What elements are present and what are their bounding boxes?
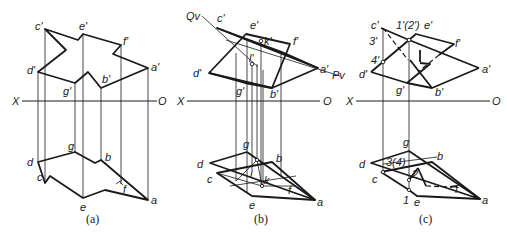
label-e-prime: e': [79, 20, 88, 32]
label-d: d: [197, 158, 204, 170]
label-b: b: [276, 152, 282, 164]
point-l: [255, 158, 258, 161]
front-view-quad: [209, 68, 318, 88]
label-c-prime: c': [35, 20, 44, 32]
caption-c: (c): [419, 212, 432, 226]
axis-label-x: X: [345, 95, 354, 107]
label-d: d: [27, 156, 34, 168]
label-g: g: [68, 140, 75, 152]
label-d-prime: d': [27, 64, 36, 76]
label-c: c: [37, 171, 43, 183]
point-2: [407, 178, 410, 181]
point-k-prime: [259, 39, 263, 43]
label-f-prime: f': [293, 35, 299, 47]
point-4-prime: [381, 60, 385, 64]
panel-a: X O c' e' f' d' a' g' b' g b d c f e a (…: [11, 20, 167, 226]
axis-label-x: X: [11, 95, 20, 107]
label-e: e: [249, 199, 255, 211]
label-e-prime: e': [424, 19, 433, 31]
label-b: b: [437, 150, 443, 162]
label-c: c: [207, 173, 213, 185]
axis-label-o: O: [158, 95, 167, 107]
label-a-prime: a': [151, 61, 160, 73]
label-e-prime: e': [250, 19, 259, 31]
label-a: a: [317, 196, 323, 208]
point-1: [407, 188, 410, 191]
panel-b: X O Qv c' e' k' f' l' d' a' Pv g' b' g: [176, 10, 346, 226]
projection-lines-a: [38, 29, 148, 200]
axis-label-x: X: [176, 95, 185, 107]
overlap-mark: [116, 180, 123, 185]
label-f: f: [123, 183, 127, 195]
top-view-polygon-a: [38, 152, 148, 200]
label-pv: Pv: [332, 69, 346, 81]
point-3-4: [381, 170, 384, 173]
label-c-prime: c': [217, 12, 226, 24]
label-a: a: [151, 194, 157, 206]
label-a: a: [482, 194, 488, 206]
label-qv: Qv: [186, 10, 202, 22]
label-c: c: [372, 173, 378, 185]
label-d: d: [359, 158, 366, 170]
front-view-edge-de-2: [409, 34, 454, 55]
label-f-prime: f': [455, 37, 461, 49]
label-f-prime: f': [123, 35, 129, 47]
label-3-4: 3(4): [386, 156, 406, 168]
front-view-polygon-a: [38, 29, 148, 88]
label-b-prime: b': [102, 73, 111, 85]
label-a-prime: a': [482, 63, 491, 75]
hidden-edge-top: [426, 186, 450, 187]
panel-c: X O c' 1'(2') e' 3' f' 4' d' a' g' b': [345, 19, 501, 226]
label-4-prime: 4': [371, 54, 380, 66]
axis-label-o: O: [323, 95, 332, 107]
label-3-prime: 3': [369, 35, 378, 47]
label-2: 2: [411, 168, 418, 180]
label-d-prime: d': [193, 67, 202, 79]
descriptive-geometry-figure: X O c' e' f' d' a' g' b' g b d c f e a (…: [0, 0, 507, 235]
axis-label-o: O: [492, 95, 501, 107]
label-c-prime: c': [371, 19, 380, 31]
caption-a: (a): [86, 212, 99, 226]
label-1-2-prime: 1'(2'): [396, 19, 420, 31]
label-k-prime: k': [264, 35, 273, 47]
edge-2b: [418, 168, 426, 186]
label-e: e: [414, 196, 420, 208]
label-g: g: [243, 138, 250, 150]
label-1: 1: [403, 194, 409, 206]
label-b-prime: b': [270, 88, 279, 100]
label-g-prime: g': [396, 84, 405, 96]
caption-b: (b): [254, 212, 268, 226]
label-g: g: [403, 136, 410, 148]
point-1-prime: [407, 38, 411, 42]
label-k: k: [264, 174, 270, 186]
label-l-prime: l': [249, 52, 254, 64]
top-view-triangle: [210, 152, 315, 200]
label-a-prime: a': [320, 63, 329, 75]
label-g-prime: g': [236, 85, 245, 97]
label-d-prime: d': [359, 68, 368, 80]
label-b: b: [105, 151, 111, 163]
label-g-prime: g': [63, 85, 72, 97]
label-b-prime: b': [435, 86, 444, 98]
